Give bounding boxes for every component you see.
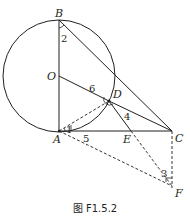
angle-label-3: 3	[161, 168, 167, 179]
label-d: D	[112, 88, 122, 101]
point-d-dot	[108, 100, 111, 103]
label-b: B	[54, 7, 63, 20]
angle-label-6: 6	[89, 83, 95, 94]
label-o: O	[47, 70, 56, 83]
label-e: E	[122, 133, 131, 146]
label-c: C	[175, 132, 184, 145]
angle-label-1: 1	[66, 124, 72, 135]
angle-label-2: 2	[61, 33, 67, 44]
figure-caption: 图 F1.5.2	[0, 200, 190, 215]
geometry-diagram: B O A D E C F 2 6 4 5 1 3	[0, 0, 190, 222]
angle-label-5: 5	[83, 133, 89, 144]
label-a: A	[52, 133, 61, 146]
angle-mark-2	[59, 25, 64, 28]
segment-od	[59, 76, 109, 101]
segment-dc	[109, 101, 172, 131]
angle-label-4: 4	[124, 111, 130, 122]
point-a-dot	[58, 130, 60, 132]
label-f: F	[174, 187, 183, 200]
dashed-af	[59, 131, 172, 186]
segment-bc	[59, 20, 172, 131]
